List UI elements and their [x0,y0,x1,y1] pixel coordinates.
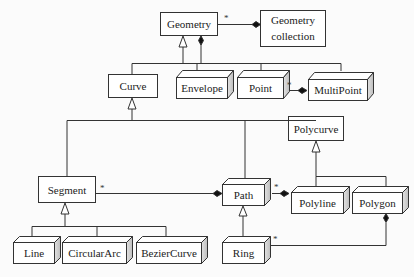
class-geometry-collection-line2: collection [261,27,325,45]
diagram-lines [0,0,414,277]
class-multipoint: MultiPoint [309,80,367,100]
class-envelope: Envelope [177,78,227,98]
class-line: Line [14,243,54,263]
class-geometry: Geometry [161,13,217,35]
class-segment: Segment [39,177,95,202]
multiplicity-point-multipoint: * [287,80,292,90]
class-bezier-curve: BezierCurve [137,243,201,263]
class-circular-arc: CircularArc [63,243,126,263]
uml-diagram: Geometry Geometry collection Curve Envel… [0,0,414,277]
class-ring: Ring [223,243,264,263]
multiplicity-ring-polygon: * [273,234,278,244]
class-path: Path [223,185,264,205]
multiplicity-path-polyline: * [274,182,279,192]
class-curve: Curve [109,75,157,97]
class-polycurve: Polycurve [289,117,343,140]
class-polygon: Polygon [353,193,402,213]
multiplicity-segment-path: * [100,183,105,193]
class-point: Point [238,78,283,98]
class-polyline: Polyline [292,193,343,213]
multiplicity-geometry-collection: * [224,13,229,23]
